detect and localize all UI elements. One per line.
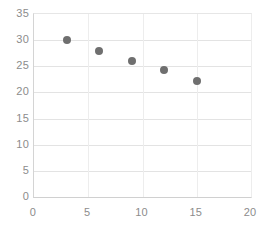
y-tick-label-30: 30	[3, 34, 29, 45]
x-tick-label-20: 20	[230, 207, 270, 218]
x-tick-label-5: 5	[67, 207, 107, 218]
y-tick-label-0: 0	[3, 191, 29, 202]
y-axis-tick-labels: 05101520253035	[0, 0, 29, 231]
gridline-x-10	[143, 14, 144, 197]
x-tick-label-0: 0	[13, 207, 53, 218]
y-tick-label-20: 20	[3, 86, 29, 97]
data-point	[128, 57, 136, 65]
y-tick-label-15: 15	[3, 112, 29, 123]
data-point	[160, 66, 168, 74]
y-tick-label-5: 5	[3, 164, 29, 175]
gridline-x-5	[88, 14, 89, 197]
y-tick-label-35: 35	[3, 8, 29, 19]
y-tick-label-10: 10	[3, 138, 29, 149]
data-point	[63, 36, 71, 44]
scatter-chart: 05101520253035 05101520	[0, 0, 272, 231]
x-tick-label-10: 10	[122, 207, 162, 218]
plot-area	[33, 13, 252, 198]
x-axis-tick-labels: 05101520	[0, 207, 272, 227]
y-tick-label-25: 25	[3, 60, 29, 71]
data-point	[193, 77, 201, 85]
x-tick-label-15: 15	[176, 207, 216, 218]
data-point	[95, 47, 103, 55]
gridline-x-15	[197, 14, 198, 197]
